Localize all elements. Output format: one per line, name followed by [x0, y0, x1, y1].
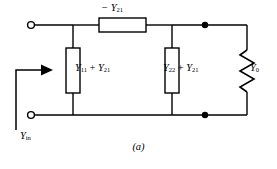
junction-dot-top-right — [202, 22, 208, 28]
figure-caption: (a) — [0, 142, 277, 153]
series-element-symbol: − Y — [101, 2, 117, 13]
shunt-left-subscript-2: 21 — [104, 66, 110, 73]
shunt-right-subscript-2: 21 — [192, 66, 198, 73]
open-terminal-bottom-left — [28, 112, 35, 119]
series-element-subscript: 21 — [117, 6, 123, 13]
shunt-left-operator: + — [87, 62, 98, 73]
load-subscript: 0 — [256, 66, 259, 73]
shunt-right-label: Y22 + Y21 — [163, 63, 198, 74]
open-terminal-top-left — [28, 22, 35, 29]
input-admittance-label: Yin — [20, 131, 31, 142]
input-admittance-arrowhead — [41, 65, 53, 76]
series-admittance-box — [99, 18, 146, 32]
shunt-right-operator: + — [175, 62, 186, 73]
shunt-left-label: Y11 + Y21 — [75, 63, 110, 74]
input-admittance-arrow-path — [16, 70, 41, 130]
circuit-figure: − Y21 Y11 + Y21 Y22 + Y21 Y0 Yin (a) — [0, 0, 277, 169]
load-admittance-label: Y0 — [250, 63, 259, 74]
junction-dot-bottom-right — [202, 112, 208, 118]
series-element-label: − Y21 — [101, 3, 123, 14]
input-subscript: in — [26, 134, 31, 141]
